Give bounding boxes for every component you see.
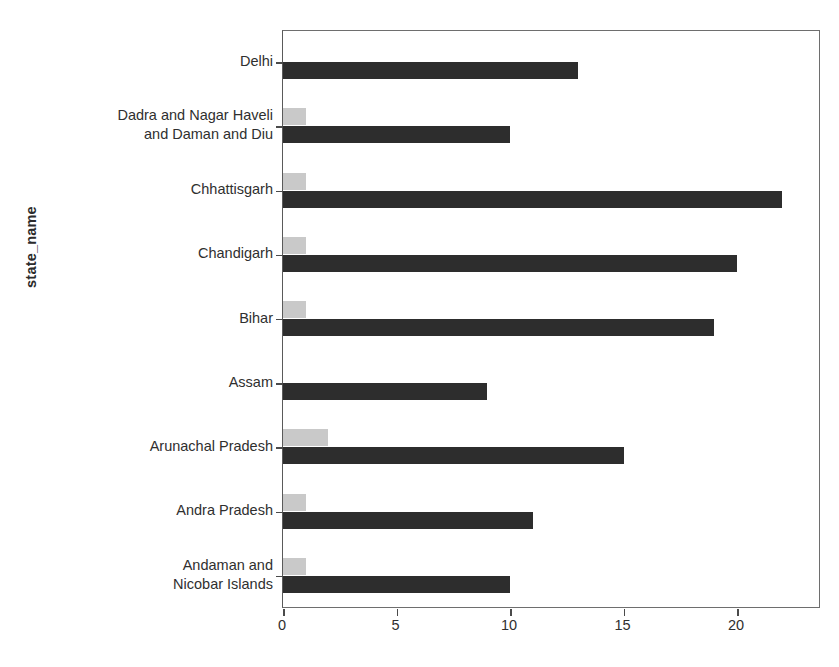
- y-axis-tick: [276, 319, 283, 321]
- bar-active[interactable]: [283, 126, 510, 143]
- x-axis-tick: [283, 609, 285, 616]
- bar-group: [283, 481, 819, 545]
- y-axis-tick: [276, 576, 283, 578]
- y-axis-title-label: state_name: [23, 206, 39, 288]
- bar-active[interactable]: [283, 576, 510, 593]
- bar-death[interactable]: [283, 237, 306, 254]
- bar-death[interactable]: [283, 108, 306, 125]
- y-axis-tick-label: Chhattisgarh: [191, 180, 273, 199]
- bar-group: [283, 352, 819, 416]
- x-axis-tick-label: 10: [501, 617, 517, 633]
- x-axis-tick: [510, 609, 512, 616]
- x-axis-tick-label: 5: [391, 617, 399, 633]
- plot-area: active death: [282, 30, 820, 608]
- y-axis-tick-label: Dadra and Nagar Haveli and Daman and Diu: [117, 106, 273, 144]
- bar-group: [283, 416, 819, 480]
- bar-group: [283, 224, 819, 288]
- bar-group: [283, 31, 819, 95]
- bar-group: [283, 159, 819, 223]
- bar-death[interactable]: [283, 558, 306, 575]
- x-axis-tick-label: 20: [728, 617, 744, 633]
- bar-group: [283, 545, 819, 609]
- x-axis-tick-label: 0: [278, 617, 286, 633]
- x-axis-tick-label: 15: [614, 617, 630, 633]
- y-axis-tick-label: Bihar: [239, 309, 273, 328]
- bar-chart-figure: state_name DelhiDadra and Nagar Haveli a…: [0, 0, 839, 667]
- bar-active[interactable]: [283, 512, 533, 529]
- y-axis-tick: [276, 62, 283, 64]
- y-axis-tick: [276, 447, 283, 449]
- bar-group: [283, 288, 819, 352]
- bar-death[interactable]: [283, 173, 306, 190]
- y-axis-title: state_name: [18, 182, 44, 312]
- x-axis-tick: [624, 609, 626, 616]
- y-axis-tick-label: Chandigarh: [198, 244, 273, 263]
- bar-death[interactable]: [283, 301, 306, 318]
- bar-group: [283, 95, 819, 159]
- y-axis-tick-label: Andra Pradesh: [176, 501, 273, 520]
- x-axis-tick: [737, 609, 739, 616]
- bar-active[interactable]: [283, 255, 737, 272]
- y-axis-tick: [276, 512, 283, 514]
- bar-death[interactable]: [283, 429, 328, 446]
- bar-active[interactable]: [283, 383, 487, 400]
- y-axis-tick-label: Delhi: [240, 52, 273, 71]
- x-axis-tick: [397, 609, 399, 616]
- y-axis-tick-label: Andaman and Nicobar Islands: [173, 556, 273, 594]
- bar-active[interactable]: [283, 447, 624, 464]
- bar-death[interactable]: [283, 494, 306, 511]
- bar-active[interactable]: [283, 62, 578, 79]
- y-axis-tick-label: Assam: [229, 373, 273, 392]
- y-axis-tick: [276, 191, 283, 193]
- y-axis-tick: [276, 383, 283, 385]
- bar-active[interactable]: [283, 191, 782, 208]
- y-axis-tick-label: Arunachal Pradesh: [150, 437, 273, 456]
- y-axis-tick: [276, 255, 283, 257]
- y-axis-tick: [276, 126, 283, 128]
- bar-active[interactable]: [283, 319, 714, 336]
